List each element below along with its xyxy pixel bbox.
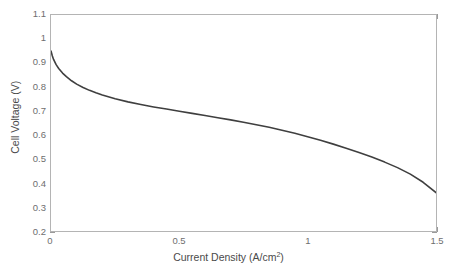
x-tick-label: 0 (47, 236, 52, 246)
figure-canvas: 0.20.30.40.50.60.70.80.911.1 00.511.5 Cu… (0, 0, 457, 273)
y-tick-label: 0.7 (33, 106, 46, 116)
y-axis-label: Cell Voltage (V) (10, 47, 21, 187)
y-tick-label: 0.9 (33, 57, 46, 67)
y-tick-mark (50, 232, 55, 233)
y-tick-label: 0.6 (33, 130, 46, 140)
y-tick-label: 0.5 (33, 154, 46, 164)
y-tick-label: 0.2 (33, 227, 46, 237)
series-line-polarization (51, 51, 436, 193)
y-tick-label: 0.3 (33, 203, 46, 213)
x-tick-label: 0.5 (172, 236, 185, 246)
y-tick-label: 0.8 (33, 82, 46, 92)
x-tick-mark (437, 227, 438, 232)
x-axis-label: Current Density (A/cm2) (0, 252, 457, 263)
polarization-curve-svg (51, 15, 436, 231)
y-tick-mark-right (432, 232, 437, 233)
plot-area (50, 14, 437, 232)
x-axis-label-base: Current Density (A/cm (173, 251, 276, 263)
y-tick-label: 1 (41, 33, 46, 43)
x-tick-label: 1.5 (430, 236, 443, 246)
y-tick-label: 0.4 (33, 179, 46, 189)
y-tick-label: 1.1 (33, 9, 46, 19)
x-tick-label: 1 (305, 236, 310, 246)
x-axis-label-tail: ) (280, 251, 284, 263)
x-tick-mark-top (437, 14, 438, 19)
